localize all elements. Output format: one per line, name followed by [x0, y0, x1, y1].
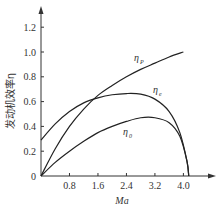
efficiency-chart: 0.20.40.60.81.01.2 0.81.62.43.24.0 0 发动机… — [0, 0, 219, 214]
curve-eta-0 — [41, 117, 189, 176]
y-tick-label: 0.2 — [24, 146, 37, 157]
origin-label: 0 — [31, 171, 36, 182]
x-tick-label: 2.4 — [120, 180, 133, 191]
x-tick-label: 0.8 — [63, 180, 76, 191]
y-tick-label: 0.8 — [24, 71, 37, 82]
x-tick-label: 3.2 — [149, 180, 162, 191]
y-axis-title: 发动机效率η — [4, 73, 16, 129]
curve-label-eta-p: η P — [134, 52, 144, 65]
svg-text:P: P — [139, 59, 144, 65]
x-tick-label: 1.6 — [92, 180, 105, 191]
y-tick-label: 0.6 — [24, 96, 37, 107]
y-tick-label: 1.0 — [24, 47, 37, 58]
svg-text:η: η — [153, 84, 158, 95]
x-axis-title: Ma — [114, 195, 128, 206]
svg-text:e: e — [159, 91, 162, 97]
y-axis-arrow-icon — [39, 6, 44, 14]
svg-text:η: η — [123, 126, 128, 137]
curves — [41, 52, 189, 176]
axes — [39, 6, 217, 179]
y-tick-label: 0.4 — [24, 121, 37, 132]
svg-text:η: η — [134, 52, 139, 63]
svg-text:0: 0 — [129, 133, 132, 139]
y-tick-label: 1.2 — [24, 22, 37, 33]
x-axis-arrow-icon — [208, 174, 216, 179]
curve-label-eta-e: η e — [153, 84, 162, 97]
curve-eta-p — [41, 52, 183, 176]
x-tick-label: 4.0 — [177, 180, 190, 191]
curve-label-eta-0: η 0 — [123, 126, 132, 139]
